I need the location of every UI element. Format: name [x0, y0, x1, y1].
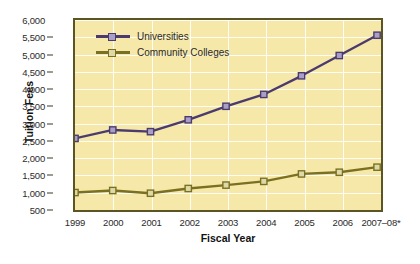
data-point-marker — [374, 32, 380, 38]
x-axis-tick-label: 2001 — [141, 217, 161, 228]
x-axis-tick-label: 2002 — [180, 217, 200, 228]
y-axis-tick-mark — [47, 210, 53, 211]
y-axis-tick-mark — [47, 71, 53, 72]
data-point-marker — [298, 73, 304, 79]
y-axis-tick-label: 1,000 — [22, 187, 45, 198]
data-point-marker — [185, 117, 191, 123]
y-axis-tick-mark — [47, 158, 53, 159]
legend-label: Universities — [137, 31, 189, 42]
y-axis-tick-label: 4,000 — [22, 84, 45, 95]
y-axis-tick-label: 500 — [30, 205, 45, 216]
data-point-marker — [298, 171, 304, 177]
x-axis-tick-label: 2006 — [333, 217, 353, 228]
x-axis-tick-label: 2003 — [218, 217, 238, 228]
y-axis-tick-mark — [47, 123, 53, 124]
legend-label: Community Colleges — [137, 47, 229, 58]
y-axis-tick-mark — [47, 89, 53, 90]
legend: UniversitiesCommunity Colleges — [96, 28, 229, 60]
data-point-marker — [110, 127, 116, 133]
x-axis-tick-label: 2007–08* — [361, 217, 400, 228]
y-axis-tick-label: 2,500 — [22, 135, 45, 146]
tuition-fees-line-chart: Tuition Fees 6,0005,5005,0004,5004,0003,… — [0, 0, 420, 264]
data-point-marker — [147, 190, 153, 196]
y-axis-tick-mark — [47, 192, 53, 193]
y-axis-tick-mark — [47, 175, 53, 176]
y-axis-tick-mark — [47, 54, 53, 55]
y-axis-tick-label: 3,500 — [22, 101, 45, 112]
data-point-marker — [336, 52, 342, 58]
data-point-marker — [110, 187, 116, 193]
legend-marker — [108, 49, 116, 57]
y-axis-tick-label: 5,500 — [22, 32, 45, 43]
data-point-marker — [73, 189, 78, 195]
y-axis-tick-label: 1,500 — [22, 170, 45, 181]
data-point-marker — [261, 91, 267, 97]
y-axis-tick-mark — [47, 140, 53, 141]
y-axis-tick-mark — [47, 106, 53, 107]
data-point-marker — [374, 164, 380, 170]
x-axis-title: Fiscal Year — [73, 232, 383, 244]
data-point-marker — [223, 103, 229, 109]
x-axis-tick-label: 2000 — [103, 217, 123, 228]
legend-swatch — [96, 30, 130, 42]
legend-item: Community Colleges — [96, 44, 229, 60]
y-axis-tick-label: 5,000 — [22, 49, 45, 60]
legend-marker — [108, 33, 116, 41]
data-point-marker — [261, 178, 267, 184]
x-axis-tick-label: 1999 — [65, 217, 85, 228]
data-point-marker — [147, 129, 153, 135]
legend-item: Universities — [96, 28, 229, 44]
legend-swatch — [96, 46, 130, 58]
y-axis-tick-label: 6,000 — [22, 15, 45, 26]
x-axis-tick-label: 2005 — [294, 217, 314, 228]
data-point-marker — [336, 169, 342, 175]
y-axis-tick-label: 3,000 — [22, 118, 45, 129]
data-point-marker — [73, 135, 78, 141]
y-axis-tick-label: 4,500 — [22, 66, 45, 77]
data-point-marker — [223, 182, 229, 188]
y-axis-tick-label: 2,000 — [22, 153, 45, 164]
y-axis: Tuition Fees 6,0005,5005,0004,5004,0003,… — [0, 0, 73, 212]
data-point-marker — [185, 185, 191, 191]
y-axis-tick-mark — [47, 37, 53, 38]
series-line — [75, 167, 377, 193]
x-axis-tick-label: 2004 — [256, 217, 276, 228]
